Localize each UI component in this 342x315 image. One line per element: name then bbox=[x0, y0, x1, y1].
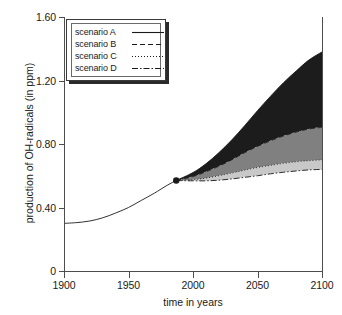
legend-label: scenario D bbox=[75, 64, 131, 73]
y-axis-title: production of OH-radicals (in ppm) bbox=[23, 18, 35, 268]
y-tick-mark bbox=[59, 17, 65, 18]
y-tick-mark bbox=[59, 144, 65, 145]
historical-record-line bbox=[64, 181, 176, 224]
branch-point-marker bbox=[173, 177, 179, 183]
legend-line-sample bbox=[131, 64, 157, 73]
historical-curve bbox=[64, 181, 176, 224]
x-tick-label: 1900 bbox=[34, 280, 94, 291]
scenario-lines bbox=[176, 52, 322, 181]
legend-inner-frame: scenario Ascenario Bscenario Cscenario D bbox=[71, 23, 161, 77]
legend-label: scenario C bbox=[75, 52, 131, 61]
x-tick-mark bbox=[322, 272, 323, 278]
legend-label: scenario A bbox=[75, 28, 131, 37]
legend-line-sample bbox=[131, 28, 157, 37]
x-tick-mark bbox=[193, 272, 194, 278]
band-band-C-D bbox=[176, 160, 322, 181]
band-band-A-B bbox=[176, 52, 322, 181]
legend-line-sample bbox=[131, 52, 157, 61]
x-axis-title: time in years bbox=[64, 296, 322, 308]
x-tick-label: 1950 bbox=[99, 280, 159, 291]
line-scenario-b bbox=[176, 127, 322, 180]
x-tick-label: 2100 bbox=[292, 280, 342, 291]
legend-label: scenario B bbox=[75, 40, 131, 49]
band-band-B-C bbox=[176, 127, 322, 180]
x-tick-mark bbox=[258, 272, 259, 278]
x-tick-mark bbox=[64, 272, 65, 278]
legend-item-scenario-b[interactable]: scenario B bbox=[75, 38, 157, 50]
branch-point-dot bbox=[173, 177, 179, 183]
legend-item-scenario-a[interactable]: scenario A bbox=[75, 26, 157, 38]
chart-figure: 00.400.801.201.60 19001950200020502100 t… bbox=[0, 0, 342, 315]
line-scenario-d bbox=[176, 169, 322, 180]
x-tick-label: 2000 bbox=[163, 280, 223, 291]
y-tick-mark bbox=[59, 208, 65, 209]
line-scenario-a bbox=[176, 52, 322, 181]
uncertainty-bands bbox=[176, 52, 322, 181]
legend-item-scenario-d[interactable]: scenario D bbox=[75, 62, 157, 74]
legend-item-scenario-c[interactable]: scenario C bbox=[75, 50, 157, 62]
x-tick-mark bbox=[129, 272, 130, 278]
line-scenario-c bbox=[176, 160, 322, 181]
legend-line-sample bbox=[131, 40, 157, 49]
plot-right-border bbox=[322, 17, 323, 272]
x-tick-label: 2050 bbox=[228, 280, 288, 291]
chart-legend[interactable]: scenario Ascenario Bscenario Cscenario D bbox=[66, 19, 166, 81]
y-tick-mark bbox=[59, 81, 65, 82]
